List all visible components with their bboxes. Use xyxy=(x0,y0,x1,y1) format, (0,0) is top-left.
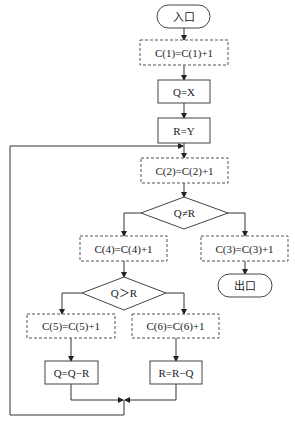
edge-d2-c5 xyxy=(62,293,82,314)
node-c2: C(2)=C(2)+1 xyxy=(141,158,228,183)
node-entry: 入口 xyxy=(157,5,210,28)
edge-rrq-merge xyxy=(125,384,176,400)
c5-label: C(5)=C(5)+1 xyxy=(42,320,100,333)
node-exit: 出口 xyxy=(218,274,272,297)
d2-label: Q＞R xyxy=(111,287,138,299)
c3-label: C(3)=C(3)+1 xyxy=(215,243,273,256)
node-ry: R=Y xyxy=(158,118,210,143)
edge-qqr-merge xyxy=(71,384,123,400)
c1-label: C(1)=C(1)+1 xyxy=(155,47,213,60)
node-c1: C(1)=C(1)+1 xyxy=(140,40,228,65)
edge-d2-c6 xyxy=(166,293,184,314)
edge-d1-c4 xyxy=(124,213,141,236)
qx-label: Q=X xyxy=(173,86,195,98)
c6-label: C(6)=C(6)+1 xyxy=(146,320,204,333)
c4-label: C(4)=C(4)+1 xyxy=(94,243,152,256)
entry-label: 入口 xyxy=(173,11,195,24)
node-c3: C(3)=C(3)+1 xyxy=(201,236,288,261)
edge-d1-c3 xyxy=(228,213,245,236)
node-d2-diamond: Q＞R xyxy=(82,277,166,310)
node-c5: C(5)=C(5)+1 xyxy=(27,314,115,338)
rrq-label: R=R−Q xyxy=(158,367,193,379)
node-d1-diamond: Q≠R xyxy=(141,197,228,229)
qqr-label: Q=Q−R xyxy=(54,367,90,379)
flowchart: 入口 C(1)=C(1)+1 Q=X R=Y C(2)=C(2)+1 Q≠R C… xyxy=(0,0,295,425)
c2-label: C(2)=C(2)+1 xyxy=(155,165,213,178)
node-rrq: R=R−Q xyxy=(150,361,202,384)
node-qx: Q=X xyxy=(158,80,210,103)
exit-label: 出口 xyxy=(234,279,256,293)
node-c4: C(4)=C(4)+1 xyxy=(80,236,167,261)
d1-label: Q≠R xyxy=(174,207,196,219)
node-c6: C(6)=C(6)+1 xyxy=(132,314,219,338)
node-qqr: Q=Q−R xyxy=(45,361,98,384)
ry-label: R=Y xyxy=(173,125,195,137)
